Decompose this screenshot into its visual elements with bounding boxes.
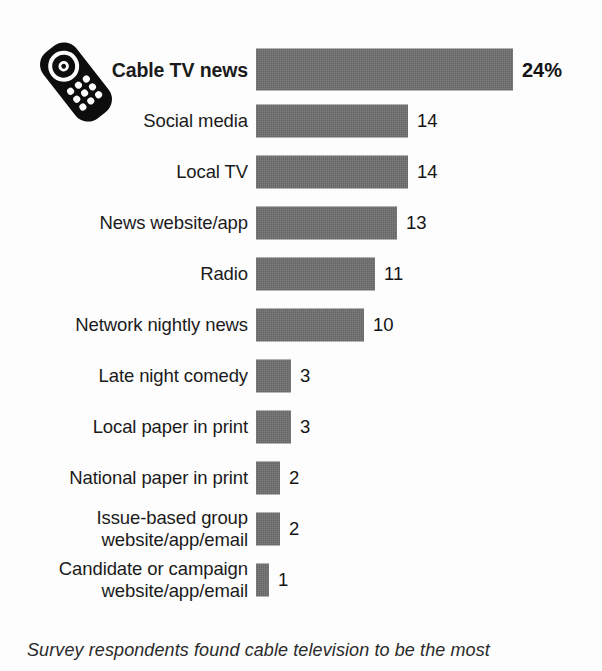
bar-value-label: 14 bbox=[417, 110, 438, 132]
bar-category-label: Local paper in print bbox=[93, 416, 248, 438]
bar-area: 3 bbox=[256, 410, 310, 443]
chart-row: Radio 11 bbox=[0, 248, 602, 299]
bar-value-label: 1 bbox=[278, 569, 288, 591]
bar-area: 2 bbox=[256, 512, 299, 545]
chart-row: Social media 14 bbox=[0, 95, 602, 146]
bar bbox=[256, 155, 408, 188]
chart-row: Network nightly news 10 bbox=[0, 299, 602, 350]
chart-row: Issue-based group website/app/email 2 bbox=[0, 503, 602, 554]
bar-value-label: 3 bbox=[300, 365, 310, 387]
bar-value-label: 3 bbox=[300, 416, 310, 438]
bar-area: 2 bbox=[256, 461, 299, 494]
chart-row: Local paper in print 3 bbox=[0, 401, 602, 452]
bar bbox=[256, 461, 280, 494]
bar bbox=[256, 308, 364, 341]
bar bbox=[256, 359, 291, 392]
bar-category-label: Local TV bbox=[176, 161, 248, 183]
chart-row: Late night comedy 3 bbox=[0, 350, 602, 401]
bar-value-label: 10 bbox=[373, 314, 394, 336]
bar-category-label: News website/app bbox=[99, 212, 248, 234]
bar-value-label: 13 bbox=[406, 212, 427, 234]
chart-row: Candidate or campaign website/app/email … bbox=[0, 554, 602, 605]
bar-value-label: 2 bbox=[289, 467, 299, 489]
bar-category-label: Issue-based group website/app/email bbox=[96, 507, 248, 551]
bar-area: 14 bbox=[256, 155, 438, 188]
bar bbox=[256, 104, 408, 137]
bar bbox=[256, 410, 291, 443]
bar-chart: Cable TV news 24% Social media 14 Local … bbox=[0, 44, 602, 605]
bar-value-label: 14 bbox=[417, 161, 438, 183]
bar-area: 3 bbox=[256, 359, 310, 392]
chart-row: Local TV 14 bbox=[0, 146, 602, 197]
chart-row: Cable TV news 24% bbox=[0, 44, 602, 95]
figure-caption: Survey respondents found cable televisio… bbox=[27, 640, 583, 661]
chart-row: News website/app 13 bbox=[0, 197, 602, 248]
bar-category-label: Radio bbox=[200, 263, 248, 285]
bar-area: 1 bbox=[256, 563, 288, 596]
chart-row: National paper in print 2 bbox=[0, 452, 602, 503]
bar-value-label: 24% bbox=[522, 58, 562, 81]
bar-category-label: Cable TV news bbox=[112, 59, 248, 81]
bar bbox=[256, 49, 513, 91]
bar-area: 10 bbox=[256, 308, 394, 341]
bar bbox=[256, 257, 375, 290]
bar-category-label: National paper in print bbox=[69, 467, 248, 489]
bar bbox=[256, 563, 269, 596]
bar-category-label: Network nightly news bbox=[75, 314, 248, 336]
bar bbox=[256, 512, 280, 545]
bar-area: 13 bbox=[256, 206, 427, 239]
bar-category-label: Late night comedy bbox=[99, 365, 248, 387]
bar-value-label: 2 bbox=[289, 518, 299, 540]
bar bbox=[256, 206, 397, 239]
bar-area: 24% bbox=[256, 53, 562, 86]
bar-category-label: Candidate or campaign website/app/email bbox=[59, 558, 248, 602]
bar-area: 11 bbox=[256, 257, 403, 290]
bar-value-label: 11 bbox=[384, 263, 403, 285]
bar-category-label: Social media bbox=[143, 110, 248, 132]
bar-area: 14 bbox=[256, 104, 438, 137]
chart-figure: Cable TV news 24% Social media 14 Local … bbox=[0, 0, 602, 671]
